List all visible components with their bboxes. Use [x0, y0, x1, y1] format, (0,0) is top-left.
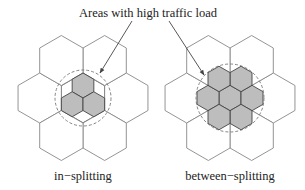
- caption-between-splitting: between−splitting: [185, 169, 275, 183]
- between-splitting-diagram: [165, 36, 295, 161]
- annotation-label: Areas with high traffic load: [79, 6, 218, 20]
- caption-in-splitting: in−splitting: [54, 169, 113, 183]
- diagram-canvas: Areas with high traffic load in−splittin…: [0, 0, 305, 190]
- in-splitting-diagram: [18, 36, 148, 161]
